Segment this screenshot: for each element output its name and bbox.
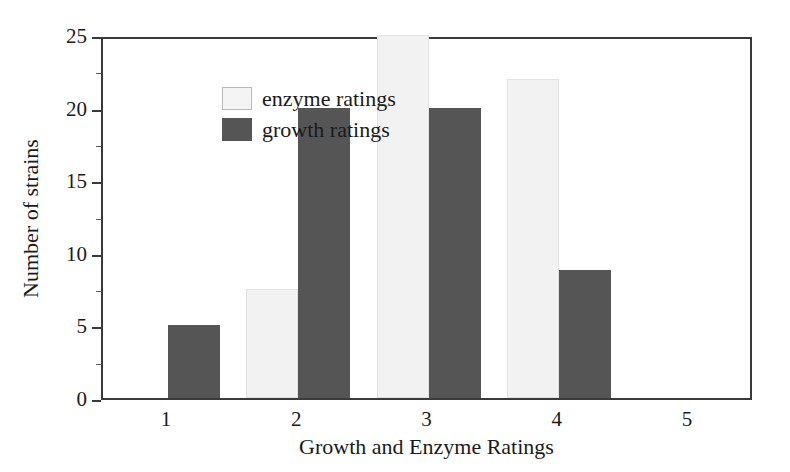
y-tick-label: 5 <box>77 316 88 337</box>
bar-chart-figure: 0510152025 enzyme ratings growth ratings… <box>0 0 790 472</box>
dark-gray-swatch-icon <box>222 118 252 141</box>
bar-growth-ratings-category-1 <box>168 325 220 398</box>
y-tick-label: 15 <box>66 171 87 192</box>
bar-growth-ratings-category-2 <box>298 108 350 398</box>
y-tick-major <box>92 327 101 329</box>
y-tick-label: 20 <box>66 99 87 120</box>
bar-enzyme-ratings-category-2 <box>246 289 298 398</box>
plot-area: enzyme ratings growth ratings <box>101 37 752 400</box>
y-tick-major <box>92 182 101 184</box>
bar-growth-ratings-category-3 <box>429 108 481 398</box>
legend-label-enzyme-ratings: enzyme ratings <box>262 88 396 110</box>
legend-label-growth-ratings: growth ratings <box>262 119 390 141</box>
bar-growth-ratings-category-4 <box>559 270 611 398</box>
y-tick-major <box>92 255 101 257</box>
bar-enzyme-ratings-category-4 <box>507 79 559 398</box>
light-gray-swatch-icon <box>222 87 252 110</box>
y-axis-title: Number of strains <box>12 37 49 400</box>
x-tick-label: 1 <box>161 409 172 430</box>
legend-entry-enzyme-ratings: enzyme ratings <box>222 87 396 110</box>
x-axis-title: Growth and Enzyme Ratings <box>101 434 752 460</box>
x-tick-label: 3 <box>421 409 432 430</box>
bars-layer <box>103 39 750 398</box>
y-tick-label: 10 <box>66 244 87 265</box>
y-tick-label: 25 <box>66 26 87 47</box>
x-tick-label: 4 <box>551 409 562 430</box>
legend: enzyme ratings growth ratings <box>222 87 396 141</box>
y-tick-major <box>92 110 101 112</box>
x-tick-label: 5 <box>682 409 693 430</box>
legend-entry-growth-ratings: growth ratings <box>222 118 396 141</box>
x-tick-label: 2 <box>291 409 302 430</box>
y-tick-major <box>92 37 101 39</box>
